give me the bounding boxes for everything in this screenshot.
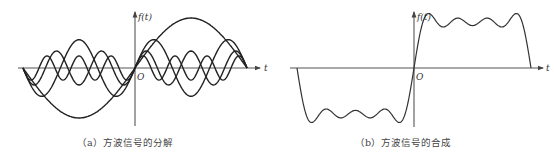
origin-label-b: O [416, 72, 424, 82]
origin-label-a: O [137, 72, 145, 82]
panel-a-decomposition: f(t) t O [18, 12, 268, 126]
figure-canvas: f(t) t O f(t) t O [0, 0, 554, 154]
x-axis-label-a: t [264, 63, 268, 73]
caption-a: （a）方波信号的分解 [77, 135, 173, 149]
x-axis-label-b: t [546, 63, 550, 73]
caption-b: （b）方波信号的合成 [355, 135, 451, 149]
y-axis-label-a: f(t) [137, 12, 152, 22]
panel-b-synthesis: f(t) t O [290, 12, 550, 127]
